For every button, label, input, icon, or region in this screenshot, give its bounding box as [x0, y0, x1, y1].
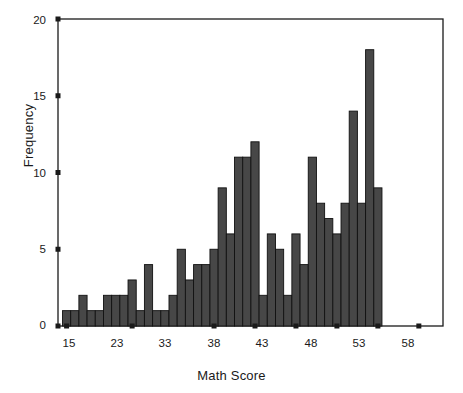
x-tick-mark [375, 324, 380, 329]
histogram-bar [103, 295, 111, 326]
x-tick-mark [130, 324, 135, 329]
histogram-figure: Frequency Math Score 20 15 10 5 0 15 23 … [0, 0, 463, 393]
y-tick-mark [56, 324, 61, 329]
histogram-bar [349, 111, 357, 326]
histogram-bar [177, 249, 185, 326]
histogram-bar [308, 157, 316, 326]
histogram-bar [366, 50, 374, 326]
histogram-bar [169, 295, 177, 326]
histogram-bar [153, 311, 161, 326]
histogram-bar [259, 295, 267, 326]
histogram-bar [71, 311, 79, 326]
histogram-bar [95, 311, 103, 326]
x-tick-mark [64, 324, 69, 329]
histogram-bar [218, 188, 226, 326]
histogram-bar [161, 311, 169, 326]
histogram-bar [275, 249, 283, 326]
histogram-bar [136, 311, 144, 326]
y-tick-mark [56, 17, 61, 22]
histogram-bar [87, 311, 95, 326]
histogram-bar [251, 142, 259, 326]
x-tick-mark [253, 324, 258, 329]
histogram-bar [226, 234, 234, 326]
histogram-bar [194, 265, 202, 326]
plot-area [0, 0, 463, 393]
histogram-bar [357, 203, 365, 326]
histogram-bar [144, 265, 152, 326]
y-tick-mark [56, 93, 61, 98]
x-tick-mark [334, 324, 339, 329]
histogram-bar [210, 249, 218, 326]
histogram-bar [120, 295, 128, 326]
x-tick-mark [416, 324, 421, 329]
y-tick-mark [56, 170, 61, 175]
histogram-bar [267, 234, 275, 326]
histogram-bar [341, 203, 349, 326]
histogram-bar [185, 280, 193, 326]
histogram-bar [284, 295, 292, 326]
histogram-bar [243, 157, 251, 326]
y-tick-mark [56, 247, 61, 252]
histogram-bar [202, 265, 210, 326]
histogram-bar [112, 295, 120, 326]
histogram-bar [325, 219, 333, 326]
histogram-bar [79, 295, 87, 326]
histogram-bar [235, 157, 243, 326]
histogram-bar [333, 234, 341, 326]
histogram-bar [292, 234, 300, 326]
histogram-bar [316, 203, 324, 326]
bars-group [63, 50, 382, 326]
histogram-bar [300, 265, 308, 326]
histogram-bar [128, 280, 136, 326]
x-tick-mark [293, 324, 298, 329]
histogram-bar [374, 188, 382, 326]
x-tick-mark [212, 324, 217, 329]
